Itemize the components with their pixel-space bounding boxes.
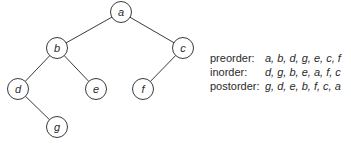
node-label: g [54,121,61,133]
tree-node-c: c [173,38,194,59]
tree-node-g: g [47,117,68,138]
traversal-label: preorder: [210,51,265,65]
traversal-value: d, g, b, e, a, f, c [265,65,341,79]
tree-nodes: abcdefg [8,2,194,138]
traversal-value: g, d, e, b, f, c, a [265,79,341,93]
traversal-list: preorder: a, b, d, g, e, c, f inorder: d… [210,51,341,93]
traversal-value: a, b, d, g, e, c, f [265,51,341,65]
tree-node-a: a [111,2,132,23]
tree-node-b: b [47,38,68,59]
traversal-label: inorder: [210,65,265,79]
traversal-label: postorder: [210,79,265,93]
node-label: a [118,6,124,18]
tree-node-d: d [8,79,29,100]
traversal-row-inorder: inorder: d, g, b, e, a, f, c [210,65,341,79]
node-label: e [93,83,99,95]
node-label: d [15,83,22,95]
tree-node-f: f [133,79,154,100]
traversal-row-postorder: postorder: g, d, e, b, f, c, a [210,79,341,93]
edge-a-b [57,12,121,48]
node-label: c [180,42,186,54]
node-label: b [54,42,60,54]
tree-edges [18,12,183,127]
tree-node-e: e [86,79,107,100]
traversal-row-preorder: preorder: a, b, d, g, e, c, f [210,51,341,65]
